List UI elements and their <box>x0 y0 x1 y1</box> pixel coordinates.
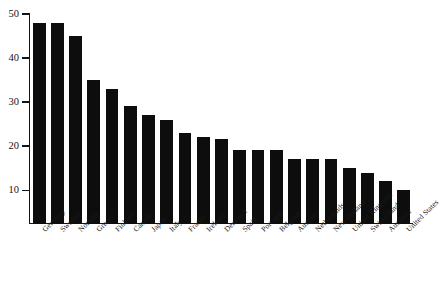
y-axis-tick-mark <box>22 101 30 102</box>
y-axis-tick-mark <box>22 190 30 191</box>
bar <box>142 115 155 224</box>
bar <box>33 23 46 224</box>
bar <box>51 23 64 224</box>
bar <box>124 106 137 224</box>
bar <box>215 139 228 224</box>
y-axis-tick-label-text: 10 <box>9 184 20 195</box>
bar <box>87 80 100 224</box>
bar <box>69 36 82 224</box>
bar <box>160 120 173 224</box>
y-axis-tick-label-text: 40 <box>9 52 20 63</box>
bar <box>252 150 265 224</box>
y-axis-tick-label-text: 20 <box>9 140 20 151</box>
y-axis-tick-label-text: 50 <box>9 8 20 19</box>
bar <box>197 137 210 224</box>
y-axis-tick-mark <box>22 145 30 146</box>
plot-area <box>30 14 413 224</box>
bar <box>179 133 192 224</box>
y-axis-tick-mark <box>22 57 30 58</box>
bar <box>106 89 119 224</box>
y-axis-tick-mark <box>22 13 30 14</box>
caption-strip <box>0 292 422 301</box>
y-axis-tick-label-text: 30 <box>9 96 20 107</box>
